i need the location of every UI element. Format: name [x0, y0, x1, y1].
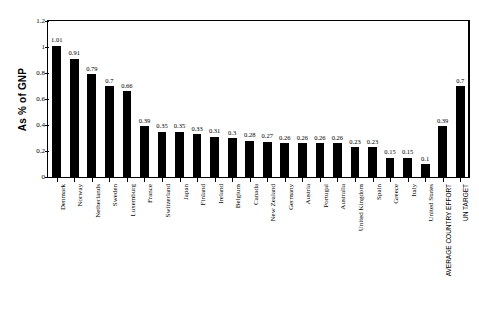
x-axis-category-label: Netherlands [95, 184, 102, 314]
bar-group[interactable]: 0.26 [280, 21, 289, 177]
bar[interactable] [70, 59, 79, 177]
y-axis-tick-label: 0.6 [36, 96, 45, 103]
bar-group[interactable]: 0.3 [228, 21, 237, 177]
bar[interactable] [175, 132, 184, 178]
x-axis-category-label: Denmark [60, 184, 67, 314]
bar-group[interactable]: 0.26 [298, 21, 307, 177]
x-axis-category-label: Japan [183, 184, 190, 314]
x-axis-category-label: New Zealand [270, 184, 277, 314]
bar[interactable] [52, 46, 61, 177]
bar[interactable] [316, 143, 325, 177]
bar[interactable] [280, 143, 289, 177]
x-axis-tick-mark [162, 178, 163, 182]
y-axis-tick-mark [45, 125, 49, 126]
bar[interactable] [333, 143, 342, 177]
y-axis-tick-mark [45, 151, 49, 152]
plot-frame: 1.010.910.790.70.660.390.350.350.330.310… [47, 20, 470, 178]
bar[interactable] [87, 74, 96, 177]
bar-group[interactable]: 0.23 [351, 21, 360, 177]
bar-value-label: 0.15 [384, 149, 395, 156]
x-axis-category-label: Greece [393, 184, 400, 314]
bar-value-label: 0.23 [367, 139, 378, 146]
bar-group[interactable]: 0.39 [438, 21, 447, 177]
x-axis-tick-mark [144, 178, 145, 182]
x-axis-tick-mark [197, 178, 198, 182]
bar-value-label: 0.35 [174, 123, 185, 130]
bar-group[interactable]: 0.26 [316, 21, 325, 177]
bar-group[interactable]: 0.35 [158, 21, 167, 177]
bar[interactable] [210, 137, 219, 177]
x-axis-tick-mark [443, 178, 444, 182]
x-axis-category-label: Austria [305, 184, 312, 314]
bar-value-label: 0.23 [349, 139, 360, 146]
y-axis-tick-label: 1.2 [36, 18, 45, 25]
x-axis-category-label: United States [428, 184, 435, 314]
bar-value-label: 0.7 [105, 78, 113, 85]
x-axis-category-label: Italy [411, 184, 418, 314]
bar-value-label: 0.26 [314, 135, 325, 142]
bar-group[interactable]: 0.91 [70, 21, 79, 177]
bar[interactable] [228, 138, 237, 177]
x-axis-category-label: Switzerland [165, 184, 172, 314]
x-axis-tick-marks [47, 178, 470, 183]
y-axis-tick-mark [45, 21, 49, 22]
bar-group[interactable]: 0.23 [368, 21, 377, 177]
x-axis-category-label: Sweden [112, 184, 119, 314]
bar-group[interactable]: 0.27 [263, 21, 272, 177]
bar[interactable] [245, 141, 254, 177]
bar-chart: As % of GNP 00.20.40.60.811.2 1.010.910.… [0, 0, 479, 324]
bar[interactable] [298, 143, 307, 177]
bar[interactable] [263, 142, 272, 177]
bar[interactable] [386, 158, 395, 178]
bar-group[interactable]: 0.31 [210, 21, 219, 177]
bar-group[interactable]: 1.01 [52, 21, 61, 177]
x-axis-category-label: Finland [200, 184, 207, 314]
bar-group[interactable]: 0.15 [403, 21, 412, 177]
bar-value-label: 0.1 [421, 156, 429, 163]
bar[interactable] [438, 126, 447, 177]
bar-group[interactable]: 0.1 [421, 21, 430, 177]
bar-group[interactable]: 0.79 [87, 21, 96, 177]
bar-value-label: 1.01 [51, 37, 62, 44]
x-axis-tick-mark [57, 178, 58, 182]
bar-group[interactable]: 0.7 [456, 21, 465, 177]
x-axis-category-label: Ireland [218, 184, 225, 314]
bar-value-label: 0.27 [262, 133, 273, 140]
bar[interactable] [351, 147, 360, 177]
x-axis-tick-mark [337, 178, 338, 182]
bar-value-label: 0.3 [228, 130, 236, 137]
bar-group[interactable]: 0.26 [333, 21, 342, 177]
x-axis-tick-mark [285, 178, 286, 182]
bar[interactable] [123, 91, 132, 177]
x-axis-tick-mark [390, 178, 391, 182]
x-axis-tick-mark [215, 178, 216, 182]
bar-group[interactable]: 0.33 [193, 21, 202, 177]
bar-value-label: 0.15 [402, 149, 413, 156]
bar-value-label: 0.26 [297, 135, 308, 142]
y-axis-tick-label: 0.4 [36, 122, 45, 129]
y-axis-tick-label: 0.8 [36, 70, 45, 77]
bar[interactable] [193, 134, 202, 177]
bar-group[interactable]: 0.35 [175, 21, 184, 177]
x-axis-tick-mark [355, 178, 356, 182]
x-axis-tick-mark [425, 178, 426, 182]
bar[interactable] [368, 147, 377, 177]
bar[interactable] [158, 132, 167, 178]
bar-value-label: 0.91 [69, 50, 80, 57]
bar-group[interactable]: 0.39 [140, 21, 149, 177]
x-axis-category-labels: DenmarkNorwayNetherlandsSwedenLuxemburgF… [47, 184, 470, 322]
x-axis-tick-mark [250, 178, 251, 182]
bar[interactable] [403, 158, 412, 178]
bar-group[interactable]: 0.7 [105, 21, 114, 177]
bar-value-label: 0.26 [332, 135, 343, 142]
bar-value-label: 0.79 [86, 66, 97, 73]
bar[interactable] [456, 86, 465, 177]
bar[interactable] [105, 86, 114, 177]
bar[interactable] [140, 126, 149, 177]
bar-group[interactable]: 0.66 [123, 21, 132, 177]
x-axis-tick-mark [232, 178, 233, 182]
y-axis-tick-labels: 00.20.40.60.811.2 [27, 20, 45, 178]
bar-group[interactable]: 0.28 [245, 21, 254, 177]
bar-group[interactable]: 0.15 [386, 21, 395, 177]
bar[interactable] [421, 164, 430, 177]
